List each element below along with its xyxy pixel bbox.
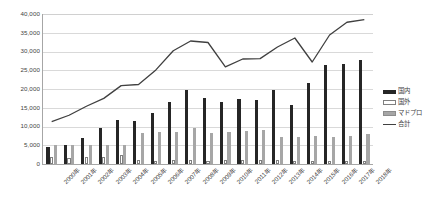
chart-container: 40,00035,00030,00025,00020,00015,00010,0… <box>0 0 438 207</box>
legend-label: 国内 <box>398 88 410 94</box>
legend-label: マドプロ <box>398 110 422 116</box>
x-axis-tick-label: 2009年 <box>219 167 237 185</box>
y-axis-tick-label: 0 <box>36 161 40 167</box>
y-axis-tick-label: 40,000 <box>20 11 40 17</box>
x-axis-tick-label: 2011年 <box>253 167 271 185</box>
legend-label: 合計 <box>398 121 410 127</box>
x-axis-tick-label: 2016年 <box>340 167 358 185</box>
y-axis: 40,00035,00030,00025,00020,00015,00010,0… <box>0 0 40 207</box>
x-axis-tick-label: 2006年 <box>167 167 185 185</box>
x-axis-tick-label: 2008年 <box>201 167 219 185</box>
x-axis-tick-label: 2005年 <box>149 167 167 185</box>
legend-item: マドプロ <box>383 108 438 119</box>
x-axis-tick-label: 2012年 <box>271 167 289 185</box>
legend-swatch-domestic <box>383 90 396 94</box>
legend: 国内国外マドプロ合計 <box>383 86 438 130</box>
y-axis-tick-label: 15,000 <box>20 105 40 111</box>
x-axis-tick-label: 2001年 <box>80 167 98 185</box>
x-axis-tick-label: 2007年 <box>184 167 202 185</box>
x-axis-tick-label: 2004年 <box>132 167 150 185</box>
x-axis-tick-label: 2013年 <box>288 167 306 185</box>
y-axis-tick-label: 20,000 <box>20 86 40 92</box>
y-axis-tick-label: 10,000 <box>20 123 40 129</box>
legend-item: 国内 <box>383 86 438 97</box>
legend-swatch-total <box>383 124 396 126</box>
total-line-series <box>43 14 373 164</box>
plot-area <box>42 14 373 165</box>
x-axis-tick-label: 2014年 <box>306 167 324 185</box>
x-axis-tick-label: 2015年 <box>323 167 341 185</box>
total-line-path <box>52 20 365 122</box>
x-axis: 2000年2001年2002年2003年2004年2005年2006年2007年… <box>42 164 372 207</box>
x-axis-tick-label: 2018年 <box>375 167 393 185</box>
legend-item: 合計 <box>383 119 438 130</box>
legend-item: 国外 <box>383 97 438 108</box>
x-axis-tick-label: 2017年 <box>358 167 376 185</box>
x-axis-tick-label: 2010年 <box>236 167 254 185</box>
x-axis-tick-label: 2000年 <box>62 167 80 185</box>
y-axis-tick-label: 30,000 <box>20 48 40 54</box>
x-axis-tick-label: 2003年 <box>115 167 133 185</box>
y-axis-tick-label: 5,000 <box>24 142 40 148</box>
y-axis-tick-label: 25,000 <box>20 67 40 73</box>
legend-label: 国外 <box>398 99 410 105</box>
x-axis-tick-label: 2002年 <box>97 167 115 185</box>
y-axis-tick-label: 35,000 <box>20 30 40 36</box>
legend-swatch-madrid <box>383 111 396 116</box>
legend-swatch-foreign <box>383 100 396 105</box>
